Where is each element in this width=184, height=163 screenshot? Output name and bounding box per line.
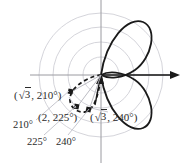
- petal-upper-right: [101, 21, 152, 77]
- point-marker-225: [74, 104, 80, 110]
- point-label-210: (√3, 210°): [14, 90, 61, 101]
- point-label-225: (2, 225°): [38, 112, 77, 123]
- sqrt-icon-210: √3: [18, 90, 32, 101]
- point-label-240-angle: 240°: [113, 111, 134, 123]
- point-label-210-angle: 210°: [37, 89, 58, 101]
- point-label-240-close: ): [134, 111, 138, 123]
- polar-rose-figure: (√3, 210°) (2, 225°) (√3, 240°) 210° 225…: [0, 0, 184, 163]
- angle-label-210: 210°: [13, 120, 33, 131]
- sqrt-icon-240: √3: [94, 112, 108, 123]
- point-label-240-radicand: 3: [101, 109, 108, 122]
- point-label-210-close: ): [58, 89, 62, 101]
- polar-axis-arrowhead: [170, 71, 180, 79]
- angle-label-225: 225°: [27, 137, 47, 148]
- point-label-210-radicand: 3: [25, 87, 32, 100]
- angle-label-240: 240°: [56, 137, 76, 148]
- point-label-240: (√3, 240°): [90, 112, 137, 123]
